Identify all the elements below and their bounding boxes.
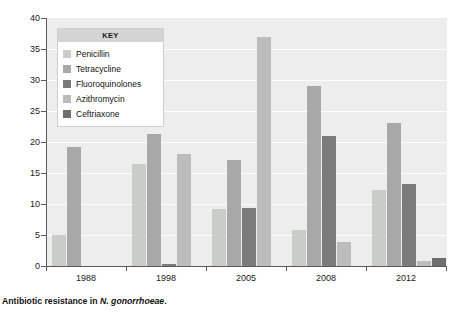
- y-tick-label: 10: [14, 198, 40, 210]
- chart-legend: KEY PenicillinTetracyclineFluoroquinolon…: [57, 28, 164, 127]
- x-tick-mark: [366, 267, 367, 271]
- y-tick-mark: [41, 173, 46, 174]
- legend-title: KEY: [58, 29, 163, 42]
- bar-fluoroquinolones-2005: [242, 208, 257, 266]
- legend-swatch-icon: [63, 80, 71, 88]
- x-tick-label-2008: 2008: [296, 273, 356, 283]
- bar-azithromycin-2012: [417, 261, 432, 266]
- y-tick-label: 5: [14, 229, 40, 241]
- x-tick-mark: [46, 267, 47, 271]
- legend-items: PenicillinTetracyclineFluoroquinolonesAz…: [58, 42, 163, 126]
- caption-prefix: Antibiotic resistance in: [2, 296, 100, 306]
- y-tick-mark: [41, 266, 46, 267]
- legend-item-azithromycin: Azithromycin: [63, 91, 163, 106]
- y-tick-label: 40: [14, 12, 40, 24]
- legend-swatch-icon: [63, 65, 71, 73]
- y-tick-mark: [41, 235, 46, 236]
- legend-item-fluoroquinolones: Fluoroquinolones: [63, 76, 163, 91]
- y-tick-label: 35: [14, 43, 40, 55]
- y-tick-mark: [41, 204, 46, 205]
- legend-swatch-icon: [63, 95, 71, 103]
- bar-group-2012: [367, 18, 447, 266]
- bar-tetracycline-2012: [387, 123, 402, 266]
- bar-group-2008: [287, 18, 367, 266]
- y-tick-label: 30: [14, 74, 40, 86]
- bar-fluoroquinolones-1998: [162, 264, 177, 266]
- bar-azithromycin-1998: [177, 154, 192, 266]
- legend-swatch-icon: [63, 110, 71, 118]
- x-tick-label-2012: 2012: [376, 273, 436, 283]
- bar-penicillin-2008: [292, 230, 307, 266]
- y-tick-mark: [41, 49, 46, 50]
- bar-azithromycin-2008: [337, 242, 352, 266]
- bar-penicillin-1998: [132, 164, 147, 266]
- y-tick-mark: [41, 18, 46, 19]
- bar-ceftriaxone-2012: [432, 258, 447, 266]
- legend-item-penicillin: Penicillin: [63, 46, 163, 61]
- y-tick-label: 15: [14, 167, 40, 179]
- bar-penicillin-1988: [52, 235, 67, 266]
- legend-item-label: Tetracycline: [76, 64, 121, 74]
- bar-tetracycline-1988: [67, 147, 82, 266]
- bar-tetracycline-2008: [307, 86, 322, 266]
- y-tick-mark: [41, 80, 46, 81]
- bar-penicillin-2005: [212, 209, 227, 266]
- legend-item-label: Azithromycin: [76, 94, 125, 104]
- bar-fluoroquinolones-2012: [402, 184, 417, 266]
- caption-species-name: N. gonorrhoeae: [100, 296, 164, 306]
- bar-group-2005: [207, 18, 287, 266]
- legend-item-label: Penicillin: [76, 49, 110, 59]
- bar-penicillin-2012: [372, 190, 387, 266]
- legend-item-label: Ceftriaxone: [76, 109, 119, 119]
- bar-azithromycin-2005: [257, 37, 272, 266]
- figure-antibiotic-resistance-chart: Percentage of resistant isolates 4035302…: [0, 0, 458, 322]
- legend-swatch-icon: [63, 50, 71, 58]
- caption-suffix: .: [164, 296, 166, 306]
- x-tick-label-2005: 2005: [216, 273, 276, 283]
- legend-item-tetracycline: Tetracycline: [63, 61, 163, 76]
- x-tick-mark: [286, 267, 287, 271]
- y-tick-label: 0: [14, 260, 40, 272]
- legend-item-label: Fluoroquinolones: [76, 79, 141, 89]
- y-tick-label: 20: [14, 136, 40, 148]
- y-tick-mark: [41, 111, 46, 112]
- y-axis-tick-labels: 4035302520151050: [14, 18, 40, 266]
- bar-tetracycline-1998: [147, 134, 162, 266]
- x-axis-tick-labels: 19881998200520082012: [46, 267, 447, 291]
- x-tick-mark: [126, 267, 127, 271]
- legend-item-ceftriaxone: Ceftriaxone: [63, 106, 163, 121]
- y-tick-mark: [41, 142, 46, 143]
- figure-caption: Antibiotic resistance in N. gonorrhoeae.: [2, 296, 442, 306]
- bar-tetracycline-2005: [227, 160, 242, 266]
- x-tick-label-1998: 1998: [136, 273, 196, 283]
- x-tick-label-1988: 1988: [56, 273, 116, 283]
- y-tick-label: 25: [14, 105, 40, 117]
- x-tick-mark: [446, 267, 447, 271]
- bar-fluoroquinolones-2008: [322, 136, 337, 266]
- x-tick-mark: [206, 267, 207, 271]
